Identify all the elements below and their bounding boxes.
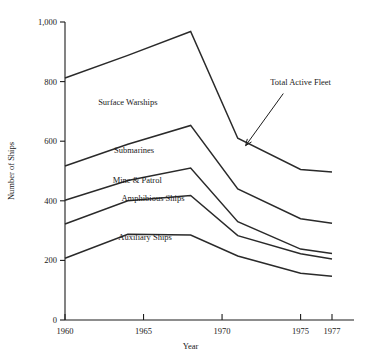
x-axis-tick-label: 1970 xyxy=(214,326,231,336)
y-axis-title: Number of Ships xyxy=(6,142,16,200)
chart-annotations: Total Active Fleet xyxy=(246,77,332,146)
x-axis-title: Year xyxy=(183,341,199,351)
series-labels: Surface WarshipsSubmarinesMine & PatrolA… xyxy=(98,97,184,242)
x-axis-tick-label: 1960 xyxy=(57,326,74,336)
y-axis-tick-label: 1,000 xyxy=(38,17,57,27)
y-axis-tick-label: 800 xyxy=(44,77,57,87)
annotation-label: Total Active Fleet xyxy=(270,77,331,87)
x-axis-tick-label: 1977 xyxy=(324,326,341,336)
series-line-mine-patrol xyxy=(65,168,332,254)
series-line-auxiliary-ships xyxy=(65,234,332,276)
y-axis-tick-label: 0 xyxy=(53,315,57,325)
series-label-submarines: Submarines xyxy=(114,145,154,155)
y-axis-ticks: 02004006008001,000 xyxy=(38,17,65,325)
ship-count-line-chart: 02004006008001,000 19601965197019751977 … xyxy=(0,0,371,359)
series-label-mine-patrol: Mine & Patrol xyxy=(113,175,163,185)
x-axis-tick-label: 1975 xyxy=(292,326,309,336)
y-axis-tick-label: 400 xyxy=(44,196,57,206)
x-axis-ticks: 19601965197019751977 xyxy=(57,314,341,336)
series-label-surface-warships: Surface Warships xyxy=(98,97,157,107)
y-axis-tick-label: 600 xyxy=(44,136,57,146)
series-label-amphibious-ships: Amphibious Ships xyxy=(121,193,184,203)
chart-canvas: 02004006008001,000 19601965197019751977 … xyxy=(0,0,371,359)
y-axis-tick-label: 200 xyxy=(44,255,57,265)
series-lines xyxy=(65,32,332,277)
annotation-arrow-shaft xyxy=(246,94,284,146)
x-axis-tick-label: 1965 xyxy=(135,326,152,336)
series-label-auxiliary-ships: Auxiliary Ships xyxy=(118,232,172,242)
series-line-amphibious-ships xyxy=(65,195,332,258)
